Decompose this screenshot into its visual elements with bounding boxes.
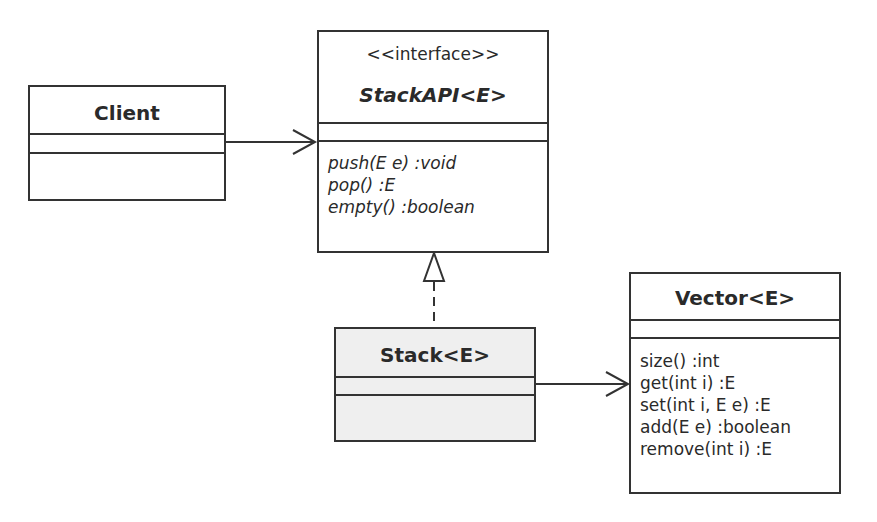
- class-name: Vector<E>: [631, 286, 839, 310]
- operation: pop() :E: [328, 174, 475, 196]
- operations-compartment: [336, 394, 534, 396]
- interface-stackapi[interactable]: <<interface>> StackAPI<E> push(E e) :voi…: [317, 30, 549, 253]
- operation: get(int i) :E: [640, 372, 791, 394]
- class-name: StackAPI<E>: [319, 83, 547, 107]
- operation: size() :int: [640, 350, 791, 372]
- attributes-compartment: [631, 319, 839, 321]
- operations-compartment: [631, 337, 839, 339]
- class-vector[interactable]: Vector<E> size() :int get(int i) :E set(…: [629, 272, 841, 494]
- stereotype-label: <<interface>>: [319, 44, 547, 64]
- attributes-compartment: [336, 376, 534, 378]
- operations-compartment: [319, 140, 547, 142]
- attributes-compartment: [30, 133, 224, 135]
- class-name: Stack<E>: [336, 343, 534, 367]
- operation: remove(int i) :E: [640, 438, 791, 460]
- stack-to-vector-association: [535, 372, 628, 396]
- operation: empty() :boolean: [328, 196, 475, 218]
- class-name: Client: [30, 101, 224, 125]
- operation: add(E e) :boolean: [640, 416, 791, 438]
- realization-triangle-icon: [424, 253, 444, 281]
- operations-compartment: [30, 152, 224, 154]
- client-to-stackapi-association: [225, 130, 315, 154]
- class-stack[interactable]: Stack<E>: [334, 327, 536, 442]
- stack-realizes-stackapi: [424, 253, 444, 327]
- class-client[interactable]: Client: [28, 85, 226, 201]
- operation: set(int i, E e) :E: [640, 394, 791, 416]
- operation: push(E e) :void: [328, 152, 475, 174]
- attributes-compartment: [319, 122, 547, 124]
- operations-list: push(E e) :void pop() :E empty() :boolea…: [328, 152, 475, 218]
- operations-list: size() :int get(int i) :E set(int i, E e…: [640, 350, 791, 460]
